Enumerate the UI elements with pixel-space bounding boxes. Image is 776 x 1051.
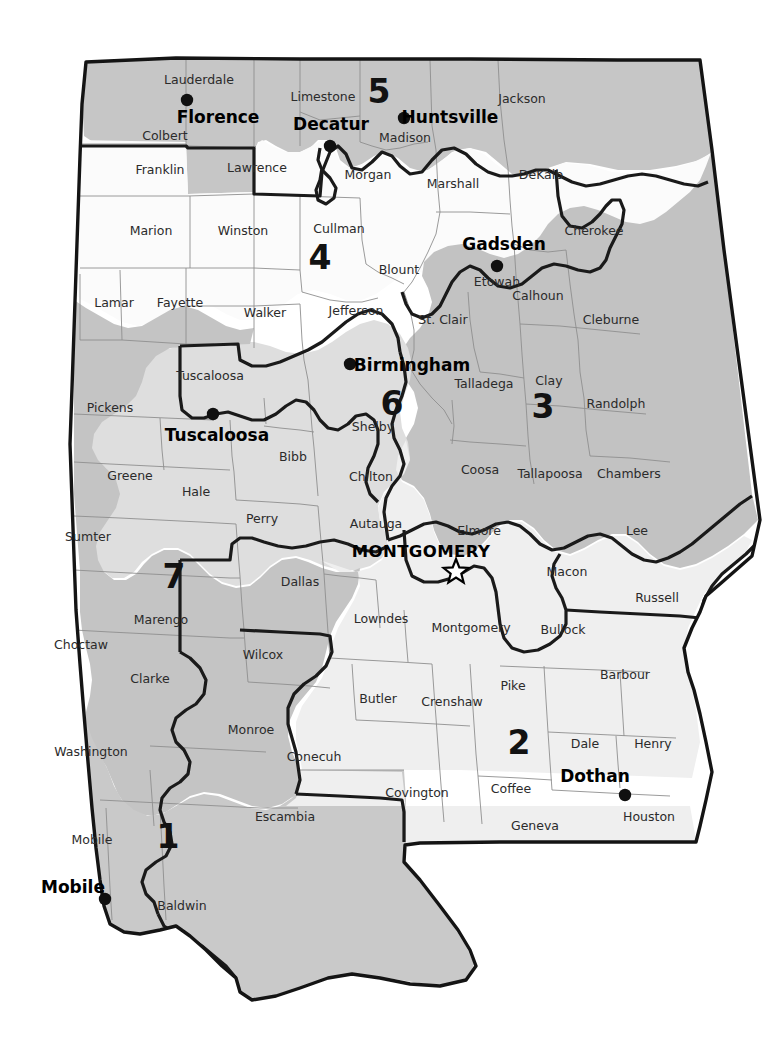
city-label-mobile: Mobile <box>41 877 105 897</box>
county-label: Cullman <box>313 221 364 236</box>
county-label: Coffee <box>491 781 532 796</box>
county-label: Marion <box>130 223 173 238</box>
county-label: Colbert <box>142 128 188 143</box>
county-label: Hale <box>182 484 211 499</box>
county-label: Dallas <box>281 574 319 589</box>
county-label: Bibb <box>279 449 307 464</box>
county-label: Monroe <box>228 722 275 737</box>
county-label: Talladega <box>453 376 513 391</box>
county-label: Perry <box>246 511 279 526</box>
county-label: Cleburne <box>583 312 640 327</box>
county-label: Mobile <box>71 832 112 847</box>
county-label: Montgomery <box>431 620 511 635</box>
county-label: Baldwin <box>157 898 206 913</box>
county-label: Houston <box>623 809 675 824</box>
county-label: Coosa <box>461 462 499 477</box>
county-label: Tuscaloosa <box>175 368 244 383</box>
county-label: Elmore <box>457 523 501 538</box>
county-label: Lamar <box>94 295 134 310</box>
county-label: Calhoun <box>512 288 563 303</box>
city-label-huntsville: Huntsville <box>402 107 499 127</box>
county-label: Chilton <box>349 469 393 484</box>
county-label: Madison <box>379 130 431 145</box>
county-label: Etowah <box>474 274 520 289</box>
county-label: Limestone <box>291 89 356 104</box>
county-label: Morgan <box>345 167 392 182</box>
county-label: Wilcox <box>243 647 284 662</box>
county-label: St. Clair <box>418 312 468 327</box>
district-fills <box>74 60 758 1000</box>
district-number-7[interactable]: 7 <box>163 557 186 596</box>
county-label: Clarke <box>130 671 170 686</box>
county-label: Marengo <box>134 612 189 627</box>
city-label-decatur: Decatur <box>293 114 369 134</box>
county-label: Chambers <box>597 466 661 481</box>
district-number-2[interactable]: 2 <box>508 723 531 762</box>
county-label: Cherokee <box>564 223 623 238</box>
district-number-4[interactable]: 4 <box>309 238 332 277</box>
county-label: Barbour <box>600 667 651 682</box>
city-dot-tuscaloosa <box>207 408 219 420</box>
county-label: Choctaw <box>54 637 108 652</box>
city-dot-gadsden <box>491 260 503 272</box>
county-label: Lee <box>626 523 648 538</box>
county-label: Fayette <box>157 295 204 310</box>
district-number-5[interactable]: 5 <box>368 72 391 111</box>
city-label-gadsden: Gadsden <box>462 234 546 254</box>
district-number-6[interactable]: 6 <box>381 384 404 423</box>
county-label: Dale <box>571 736 600 751</box>
county-label: Lawrence <box>227 160 287 175</box>
county-label: Henry <box>634 736 672 751</box>
county-label: Winston <box>218 223 268 238</box>
county-label: Randolph <box>587 396 646 411</box>
district-number-1[interactable]: 1 <box>157 817 180 856</box>
city-dot-decatur <box>324 140 336 152</box>
county-label: Jackson <box>497 91 546 106</box>
county-label: Macon <box>547 564 588 579</box>
county-label: Pickens <box>87 400 134 415</box>
alabama-map-svg: LauderdaleLimestoneJacksonColbertMadison… <box>0 0 776 1051</box>
county-label: Bullock <box>540 622 586 637</box>
city-dot-dothan <box>619 789 631 801</box>
county-label: Walker <box>244 305 287 320</box>
county-label: Butler <box>359 691 398 706</box>
congressional-district-map: LauderdaleLimestoneJacksonColbertMadison… <box>0 0 776 1051</box>
county-label: Crenshaw <box>421 694 483 709</box>
county-label: Covington <box>385 785 449 800</box>
county-label: Pike <box>500 678 526 693</box>
city-label-tuscaloosa: Tuscaloosa <box>165 425 269 445</box>
county-label: Geneva <box>511 818 559 833</box>
county-label: Marshall <box>427 176 480 191</box>
county-label: Franklin <box>135 162 184 177</box>
city-label-dothan: Dothan <box>560 766 630 786</box>
county-label: DeKalb <box>519 167 563 182</box>
county-label: Russell <box>635 590 679 605</box>
city-dot-florence <box>181 94 193 106</box>
county-label: Blount <box>379 262 420 277</box>
county-label: Conecuh <box>287 749 342 764</box>
city-label-florence: Florence <box>177 107 260 127</box>
county-label: Jefferson <box>328 303 384 318</box>
district-number-3[interactable]: 3 <box>532 387 555 426</box>
county-label: Autauga <box>350 516 403 531</box>
county-label: Washington <box>54 744 127 759</box>
county-label: Greene <box>107 468 153 483</box>
capital-label: MONTGOMERY <box>352 542 491 561</box>
county-label: Clay <box>535 373 563 388</box>
county-label: Tallapoosa <box>516 466 582 481</box>
city-label-birmingham: Birmingham <box>354 355 470 375</box>
county-label: Lowndes <box>354 611 409 626</box>
county-label: Escambia <box>255 809 315 824</box>
county-label: Sumter <box>65 529 112 544</box>
county-label: Lauderdale <box>164 72 234 87</box>
